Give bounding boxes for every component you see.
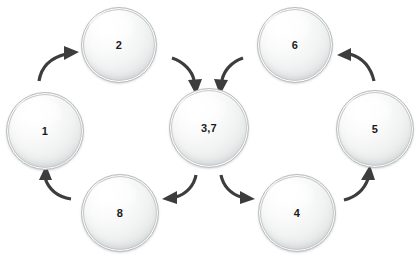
cycle-node-4[interactable]: 4 (258, 174, 336, 252)
cycle-node-5[interactable]: 5 (336, 90, 414, 168)
cycle-node-1[interactable]: 1 (6, 92, 84, 170)
cycle-diagram: 1 2 3,7 6 5 4 8 (0, 0, 417, 257)
cycle-node-6[interactable]: 6 (257, 7, 333, 83)
cycle-node-label: 4 (294, 208, 300, 219)
cycle-node-label: 1 (42, 126, 48, 137)
cycle-node-3-7[interactable]: 3,7 (169, 88, 249, 168)
arrow-37-to-8 (162, 175, 196, 204)
arrow-8-to-1 (39, 165, 71, 199)
arrow-5-to-6 (337, 48, 374, 81)
cycle-node-2[interactable]: 2 (81, 7, 157, 83)
cycle-node-8[interactable]: 8 (81, 174, 159, 252)
arrow-37-to-4 (221, 175, 255, 204)
cycle-node-label: 2 (116, 40, 122, 51)
cycle-node-label: 6 (292, 40, 298, 51)
arrow-1-to-2 (39, 46, 79, 81)
cycle-node-label: 3,7 (201, 123, 217, 134)
cycle-node-label: 5 (372, 124, 378, 135)
arrow-4-to-5 (344, 165, 375, 200)
cycle-node-label: 8 (117, 208, 123, 219)
